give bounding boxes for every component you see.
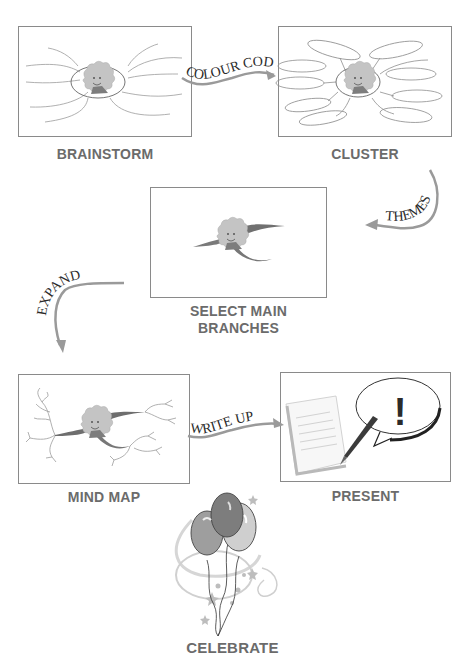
brain-face-icon: [217, 217, 249, 250]
write-up-arrow: WRITE UP: [188, 408, 284, 437]
brain-face-icon: [344, 61, 376, 94]
brain-face-icon: [81, 405, 113, 438]
themes-arrow: THEMES: [365, 170, 437, 230]
colour-code-text: COLOUR CODE: [0, 0, 275, 82]
colour-code-arrow: COLOUR CODE: [0, 0, 276, 84]
celebrate-balloons-icon: [176, 493, 277, 636]
svg-text:EXPAND: EXPAND: [34, 267, 82, 317]
expand-arrow: EXPAND: [34, 267, 124, 353]
svg-text:COLOUR CODE: COLOUR CODE: [0, 0, 275, 82]
mind-map-process-diagram: BRAINSTORM CLUSTER SELECT MAIN BRANCHES …: [0, 0, 465, 665]
expand-text: EXPAND: [34, 267, 82, 317]
exclamation-icon: !: [394, 391, 407, 433]
themes-text: THEMES: [385, 193, 434, 224]
svg-text:THEMES: THEMES: [385, 193, 434, 224]
brain-face-icon: [83, 61, 115, 94]
present-sketch: !: [286, 378, 440, 474]
